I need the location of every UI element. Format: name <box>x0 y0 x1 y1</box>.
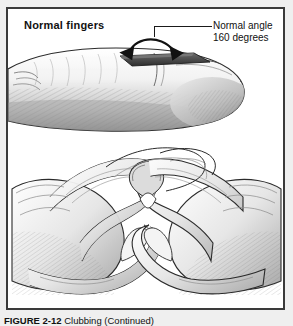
leader-line-vertical <box>154 26 155 37</box>
leader-line-elbow <box>154 26 195 27</box>
figure-frame: Normal fingers Normal angle 160 degrees <box>6 7 285 310</box>
figure-caption-text: Clubbing (Continued) <box>64 315 154 326</box>
leader-line-horizontal <box>194 26 212 27</box>
schamroth-window-illustration <box>10 137 283 310</box>
normal-angle-line-1: Normal angle <box>213 20 272 32</box>
normal-angle-line-2: 160 degrees <box>213 32 272 44</box>
figure-caption: FIGURE 2-12 Clubbing (Continued) <box>4 315 154 326</box>
normal-fingers-label: Normal fingers <box>24 19 104 31</box>
normal-angle-label: Normal angle 160 degrees <box>213 20 272 44</box>
figure-caption-number: FIGURE 2-12 <box>4 315 62 326</box>
